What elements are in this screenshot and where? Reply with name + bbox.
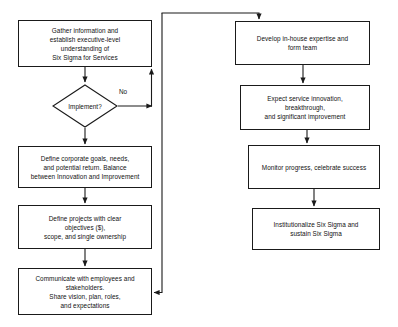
node-develop-in-house-expertise-label: Develop in-house expertise and form team [257, 34, 348, 52]
edge-label-no: No [119, 88, 127, 96]
node-monitor-progress-label: Monitor progress, celebrate success [262, 163, 366, 172]
node-develop-in-house-expertise[interactable]: Develop in-house expertise and form team [235, 21, 370, 65]
node-gather-information[interactable]: Gather information and establish executi… [18, 20, 152, 67]
node-implement-decision[interactable]: Implement? [52, 84, 118, 128]
node-define-corporate-goals[interactable]: Define corporate goals, needs, and poten… [18, 146, 152, 188]
node-communicate-label: Communicate with employees and stakehold… [35, 274, 134, 310]
edge-communicate-to-develop-team [154, 13, 162, 293]
node-gather-information-label: Gather information and establish executi… [50, 26, 121, 62]
node-expect-service-innovation[interactable]: Expect service innovation, breakthrough,… [240, 85, 370, 130]
node-institutionalize-six-sigma-label: Institutionalize Six Sigma and sustain S… [274, 220, 359, 238]
node-implement-decision-label: Implement? [68, 102, 101, 111]
node-monitor-progress[interactable]: Monitor progress, celebrate success [248, 145, 380, 189]
node-define-projects-label: Define projects with clear objectives ($… [44, 214, 126, 241]
flowchart-canvas: Gather information and establish executi… [0, 0, 398, 327]
node-define-corporate-goals-label: Define corporate goals, needs, and poten… [31, 154, 140, 181]
node-communicate[interactable]: Communicate with employees and stakehold… [18, 268, 152, 315]
edge-top-rail-to-develop-team [162, 13, 260, 19]
node-institutionalize-six-sigma[interactable]: Institutionalize Six Sigma and sustain S… [252, 208, 380, 250]
node-define-projects[interactable]: Define projects with clear objectives ($… [18, 205, 152, 249]
node-expect-service-innovation-label: Expect service innovation, breakthrough,… [265, 94, 346, 121]
